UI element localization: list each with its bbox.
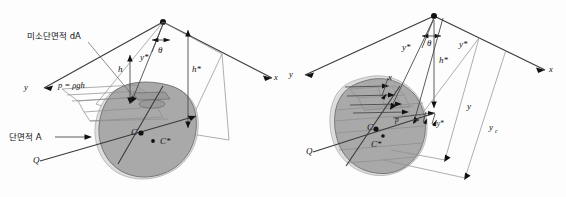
y-star-label: y* xyxy=(139,52,149,62)
y-c-subscript: c xyxy=(495,128,498,134)
elemental-area-label: 미소단면적 dA xyxy=(27,31,81,41)
axis-x-label: x xyxy=(273,72,278,82)
center-of-pressure-label: C* xyxy=(371,139,382,149)
right-diagram-panel: h* y* y* y y c dy* θ y x x p C C* Q xyxy=(283,0,566,197)
y-dim-arrow xyxy=(444,155,451,162)
point-q-label: Q xyxy=(33,155,40,165)
h-arrow-up xyxy=(127,55,133,61)
depth-h-label: h xyxy=(118,64,123,74)
y-star-label: y* xyxy=(401,42,411,52)
axis-y-label: y xyxy=(288,69,293,79)
h-star-arrow-down xyxy=(431,102,437,108)
theta-arrow-left xyxy=(152,38,158,42)
point-q-label: Q xyxy=(306,146,313,156)
y-c-dim-arrow xyxy=(464,173,471,180)
y-axis-arrowhead xyxy=(44,85,53,91)
surface-edge-left xyxy=(305,16,434,75)
pressure-formula-label: p = ρgh xyxy=(57,80,85,90)
center-of-pressure-dot xyxy=(381,134,385,138)
elemental-area-leader xyxy=(88,42,133,96)
centroid-dot xyxy=(138,130,143,135)
left-diagram-panel: 미소단면적 dA 단면적 A p = ρgh h h* y* θ y x C C… xyxy=(0,0,283,197)
y-star-2-line xyxy=(414,18,443,122)
y-star-2-label: y* xyxy=(458,39,468,49)
hydrostatic-force-figure: 미소단면적 dA 단면적 A p = ρgh h h* y* θ y x C C… xyxy=(0,0,566,197)
theta-label: θ xyxy=(427,38,432,48)
pressure-p-label: p xyxy=(394,115,399,124)
area-label: 단면적 A xyxy=(9,132,42,142)
depth-h-star-label: h* xyxy=(192,64,202,74)
centroid-label: C xyxy=(131,127,138,137)
y-c-label-group: y c xyxy=(488,122,498,134)
depth-h-star-label: h* xyxy=(439,55,449,65)
y-label: y xyxy=(466,101,471,111)
axis-y-label: y xyxy=(23,82,28,92)
y-c-label: y xyxy=(488,122,493,132)
width-x-label: x xyxy=(387,72,392,82)
y-dim-line xyxy=(445,38,479,160)
dA-strip xyxy=(133,92,170,100)
surface-edge-right xyxy=(163,22,272,78)
center-of-pressure-dot xyxy=(151,139,155,143)
theta-arrow-right xyxy=(164,38,170,42)
area-label-arrow xyxy=(55,134,92,140)
y-c-dim-line xyxy=(465,50,506,178)
center-of-pressure-label: C* xyxy=(160,136,171,146)
free-surface-plane xyxy=(305,13,545,78)
depth-h-star-dimension xyxy=(431,20,437,108)
h-star-arrow-up xyxy=(185,30,191,36)
centroid-label: C xyxy=(367,122,374,132)
centroid-dot xyxy=(373,126,378,131)
axis-x-label: x xyxy=(548,64,553,74)
theta-label: θ xyxy=(158,45,163,55)
dy-star-label: dy* xyxy=(433,119,444,128)
area-arrow-head xyxy=(85,134,93,140)
surface-edge-right xyxy=(434,16,545,70)
